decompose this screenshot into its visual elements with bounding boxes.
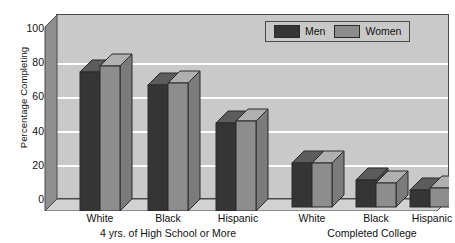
- xtick-right-black: Black: [363, 212, 389, 224]
- y-axis-tick-labels: 100 80 60 40 20 0: [18, 0, 44, 243]
- chart-figure: Percentage Completing 100 80 60 40 20 0: [0, 0, 455, 243]
- legend-entry-men: Men: [274, 25, 325, 38]
- legend-label-men: Men: [305, 26, 325, 37]
- legend-swatch-women: [334, 25, 360, 38]
- bar-left-black-women: [168, 71, 200, 211]
- y-tick-100: 100: [18, 23, 44, 33]
- bars-layer: [44, 14, 449, 211]
- xtick-left-white: White: [87, 212, 114, 224]
- xtick-left-hispanic: Hispanic: [218, 212, 258, 224]
- y-tick-80: 80: [18, 57, 44, 67]
- legend-label-women: Women: [365, 26, 401, 37]
- bar-right-white-women: [312, 151, 344, 207]
- xtick-right-hispanic: Hispanic: [412, 212, 452, 224]
- y-tick-0: 0: [18, 194, 44, 204]
- panel-label-highschool: 4 yrs. of High School or More: [100, 227, 236, 239]
- xtick-right-white: White: [299, 212, 326, 224]
- bar-left-white-women: [100, 54, 132, 211]
- legend: Men Women: [265, 21, 410, 42]
- legend-swatch-men: [274, 25, 300, 38]
- panel-label-college: Completed College: [327, 227, 416, 239]
- legend-entry-women: Women: [334, 25, 401, 38]
- plot-area: Men Women: [44, 14, 449, 210]
- xtick-left-black: Black: [155, 212, 181, 224]
- y-tick-60: 60: [18, 91, 44, 101]
- bar-left-hispanic-women: [236, 109, 268, 211]
- y-tick-40: 40: [18, 126, 44, 136]
- y-tick-20: 20: [18, 160, 44, 170]
